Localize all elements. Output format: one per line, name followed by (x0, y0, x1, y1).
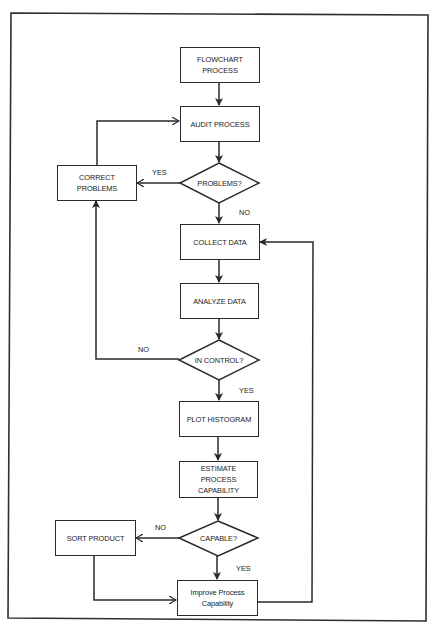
edge-label-in-control-yes: YES (239, 386, 254, 395)
node-label: SORT PRODUCT (67, 533, 125, 544)
node-label: COLLECT DATA (193, 237, 246, 248)
node-label: FLOWCHART PROCESS (197, 54, 243, 76)
edge-label-capable-yes: YES (236, 564, 251, 573)
capable-decision-label: CAPABLE? (179, 532, 258, 544)
node-label: AUDIT PROCESS (191, 119, 250, 130)
node-label: CORRECT PROBLEMS (77, 172, 117, 194)
edge-label-problems-yes: YES (152, 168, 167, 177)
edge-label-in-control-no: NO (138, 345, 149, 354)
node-label: PLOT HISTOGRAM (187, 414, 251, 425)
edge-label-capable-no: NO (155, 523, 166, 532)
edge-label-problems-no: NO (239, 208, 250, 217)
flowchart-process-node: FLOWCHART PROCESS (180, 47, 260, 83)
in-control-decision-label: IN CONTROL? (179, 354, 259, 366)
correct-problems-node: CORRECT PROBLEMS (57, 165, 137, 201)
improve-capability-node: Improve Process Capability (177, 580, 258, 616)
sort-product-node: SORT PRODUCT (55, 520, 136, 556)
analyze-data-node: ANALYZE DATA (180, 283, 259, 319)
node-label: ANALYZE DATA (193, 296, 246, 307)
node-label: ESTIMATE PROCESS CAPABILITY (198, 463, 239, 496)
collect-data-node: COLLECT DATA (180, 224, 260, 260)
flowchart-diagram: FLOWCHART PROCESS AUDIT PROCESS PROBLEMS… (0, 0, 435, 627)
plot-histogram-node: PLOT HISTOGRAM (179, 401, 259, 437)
audit-process-node: AUDIT PROCESS (180, 106, 260, 142)
node-label: Improve Process Capability (191, 587, 245, 609)
problems-decision-label: PROBLEMS? (180, 177, 259, 189)
estimate-capability-node: ESTIMATE PROCESS CAPABILITY (179, 461, 258, 498)
